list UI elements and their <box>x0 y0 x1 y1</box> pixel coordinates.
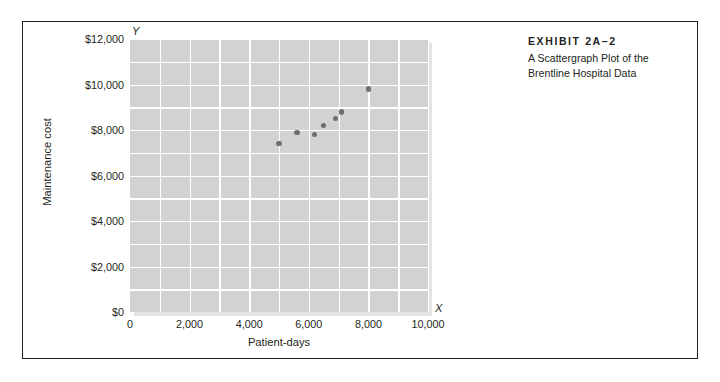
data-point <box>321 123 326 128</box>
y-axis-tick-labels: $0$2,000$4,000$6,000$8,000$10,000$12,000 <box>54 39 124 312</box>
x-tick-label: 8,000 <box>355 318 382 330</box>
data-point <box>276 141 281 146</box>
data-point <box>294 130 299 135</box>
gridline-horizontal <box>130 221 428 222</box>
x-tick-label: 10,000 <box>411 318 444 330</box>
gridline-horizontal <box>130 39 428 40</box>
data-point <box>333 116 338 121</box>
gridline-horizontal <box>130 85 428 86</box>
gridline-horizontal <box>130 130 428 131</box>
plot-area <box>130 39 428 312</box>
data-point <box>339 109 344 114</box>
gridline-vertical <box>428 39 429 312</box>
data-point <box>312 132 317 137</box>
y-tick-label: $2,000 <box>56 261 124 273</box>
exhibit-label: EXHIBIT 2A–2 <box>528 34 688 48</box>
gridline-horizontal <box>130 107 428 108</box>
data-point <box>366 86 371 91</box>
gridline-horizontal <box>130 244 428 245</box>
x-tick-label: 0 <box>127 318 133 330</box>
y-axis-title: Maintenance cost <box>41 87 53 237</box>
exhibit-subtitle-line-2: Brentline Hospital Data <box>528 66 688 81</box>
exhibit-subtitle: A Scattergraph Plot of the Brentline Hos… <box>528 51 688 80</box>
exhibit-subtitle-line-1: A Scattergraph Plot of the <box>528 51 688 66</box>
exhibit-caption: EXHIBIT 2A–2 A Scattergraph Plot of the … <box>528 34 688 80</box>
gridline-horizontal <box>130 176 428 177</box>
x-axis-title: Patient-days <box>130 336 428 348</box>
y-tick-label: $10,000 <box>56 79 124 91</box>
gridline-horizontal <box>130 153 428 154</box>
x-tick-label: 6,000 <box>295 318 322 330</box>
y-tick-label: $8,000 <box>56 124 124 136</box>
y-tick-label: $0 <box>56 306 124 318</box>
gridline-horizontal <box>130 198 428 199</box>
x-axis-letter: X <box>435 302 442 314</box>
y-tick-label: $6,000 <box>56 170 124 182</box>
y-axis-letter: Y <box>132 25 139 37</box>
y-tick-label: $4,000 <box>56 215 124 227</box>
x-tick-label: 2,000 <box>176 318 203 330</box>
x-axis-tick-labels: 02,0004,0006,0008,00010,000 <box>130 318 428 334</box>
y-tick-label: $12,000 <box>56 33 124 45</box>
gridline-horizontal <box>130 62 428 63</box>
x-tick-label: 4,000 <box>236 318 263 330</box>
gridline-horizontal <box>130 289 428 290</box>
scattergraph-chart: Y X $0$2,000$4,000$6,000$8,000$10,000$12… <box>23 22 523 360</box>
gridline-horizontal <box>130 267 428 268</box>
exhibit-frame: Y X $0$2,000$4,000$6,000$8,000$10,000$12… <box>22 21 698 359</box>
